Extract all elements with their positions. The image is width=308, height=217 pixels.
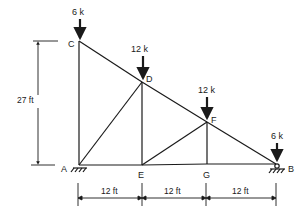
height-label: 27 ft: [17, 95, 34, 105]
member-FB: [207, 122, 276, 164]
node-label-E: E: [138, 170, 144, 180]
span-label-AE: 12 ft: [101, 186, 118, 196]
node-label-D: D: [146, 74, 153, 84]
load-label-B: 6 k: [271, 131, 284, 141]
member-AD: [79, 82, 142, 165]
load-F: 12 k: [198, 85, 216, 118]
node-label-F: F: [211, 115, 217, 125]
load-label-F: 12 k: [198, 85, 216, 95]
truss-members: [79, 41, 276, 165]
span-label-EG: 12 ft: [164, 186, 181, 196]
load-D: 12 k: [131, 44, 149, 78]
load-label-C: 6 k: [72, 7, 85, 17]
span-label-GB: 12 ft: [232, 186, 249, 196]
height-dimension: [31, 41, 58, 165]
node-label-A: A: [61, 164, 67, 174]
roller-support-B: [269, 164, 285, 173]
load-C: 6 k: [72, 7, 85, 38]
load-label-D: 12 k: [131, 44, 149, 54]
load-B: 6 k: [271, 131, 284, 160]
truss-diagram: C D F A E G B 6 k 12 k 12 k 6 k 27 ft 12: [0, 0, 308, 217]
node-label-G: G: [203, 170, 210, 180]
node-label-B: B: [288, 164, 294, 174]
member-EF: [142, 122, 207, 165]
member-EG: [142, 164, 207, 165]
pin-support-A: [71, 168, 87, 172]
node-label-C: C: [68, 39, 75, 49]
